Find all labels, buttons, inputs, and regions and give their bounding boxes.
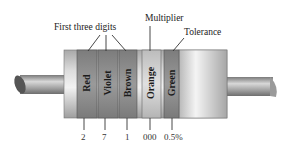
label-multiplier: Multiplier bbox=[145, 14, 184, 24]
value-green: 0.5% bbox=[164, 133, 183, 142]
right-lead bbox=[226, 77, 277, 97]
band-label-green: Green bbox=[167, 62, 177, 104]
value-orange: 000 bbox=[143, 133, 157, 142]
value-violet: 7 bbox=[102, 133, 107, 142]
band-label-brown: Brown bbox=[123, 63, 133, 103]
value-red: 2 bbox=[81, 133, 86, 142]
leader-lines-bottom bbox=[84, 118, 172, 130]
band-label-red: Red bbox=[82, 63, 92, 103]
band-label-orange: Orange bbox=[146, 59, 156, 107]
resistor-diagram: First three digits Multiplier Tolerance … bbox=[0, 0, 286, 150]
label-tolerance: Tolerance bbox=[184, 28, 221, 38]
value-brown: 1 bbox=[125, 133, 130, 142]
band-label-violet: Violet bbox=[103, 63, 113, 103]
label-first-three-digits: First three digits bbox=[54, 23, 116, 33]
left-lead bbox=[12, 74, 66, 95]
